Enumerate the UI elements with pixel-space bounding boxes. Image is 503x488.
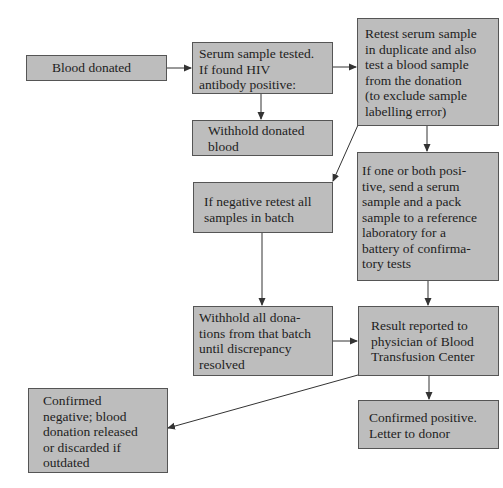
node-confirmed-negative: Confirmed negative; blood donation relea… (28, 388, 168, 473)
node-negative-retest-batch: If negative retest all samples in batch (193, 182, 333, 233)
node-label: Result reported to physician of Blood Tr… (371, 318, 492, 365)
node-blood-donated: Blood donated (26, 55, 167, 81)
node-result-reported: Result reported to physician of Blood Tr… (358, 306, 499, 376)
node-serum-sample-tested: Serum sample tested. If found HIV antibo… (192, 42, 333, 94)
node-withhold-donated-blood: Withhold donated blood (192, 120, 333, 156)
node-retest-serum-sample: Retest serum sample in duplicate and als… (357, 18, 499, 126)
node-label: Withhold donated blood (208, 123, 332, 154)
node-label: Blood donated (52, 60, 166, 76)
node-label: Withhold all dona- tions from that batch… (199, 310, 327, 372)
arrow-result-to-confirmed-negative (168, 375, 358, 428)
arrow-retest-to-negative (333, 125, 358, 181)
node-label: Confirmed positive. Letter to donor (369, 410, 493, 441)
node-confirmed-positive: Confirmed positive. Letter to donor (358, 400, 499, 449)
node-label: If negative retest all samples in batch (204, 194, 327, 225)
node-label: Serum sample tested. If found HIV antibo… (199, 46, 326, 93)
node-label: Confirmed negative; blood donation relea… (43, 393, 161, 471)
node-withhold-all-donations: Withhold all dona- tions from that batch… (193, 306, 333, 376)
node-one-or-both-positive: If one or both posi- tive, send a serum … (357, 152, 499, 281)
node-label: Retest serum sample in duplicate and als… (365, 26, 491, 119)
node-label: If one or both posi- tive, send a serum … (362, 163, 494, 272)
